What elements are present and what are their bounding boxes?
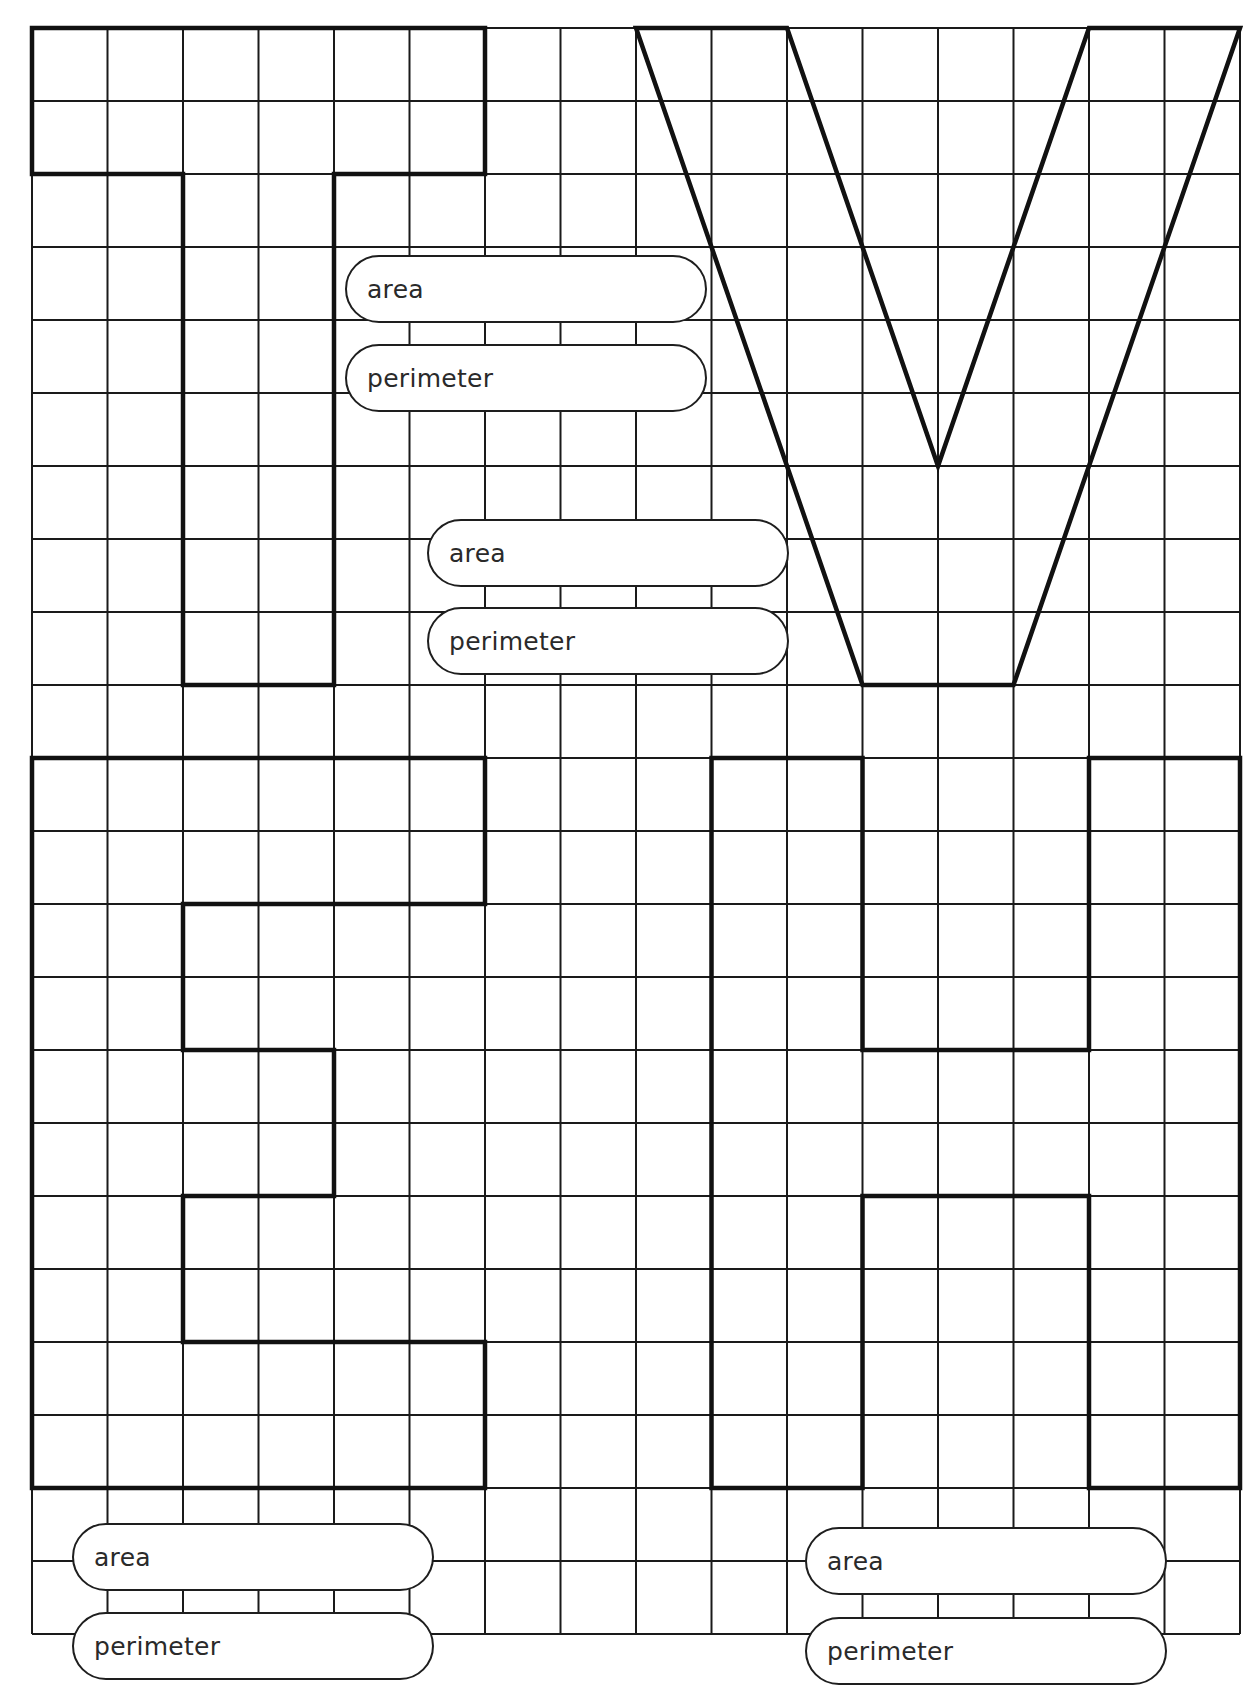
v-area-box[interactable]: area [427, 519, 789, 587]
t-area-box[interactable]: area [345, 255, 707, 323]
t-area-label: area [367, 275, 424, 304]
v-area-label: area [449, 539, 506, 568]
t-perimeter-label: perimeter [367, 364, 493, 393]
e-area-label: area [94, 1543, 151, 1572]
grid-worksheet: area perimeter area perimeter area perim… [0, 0, 1259, 1707]
e-perimeter-label: perimeter [94, 1632, 220, 1661]
v-perimeter-label: perimeter [449, 627, 575, 656]
h-perimeter-label: perimeter [827, 1637, 953, 1666]
h-area-box[interactable]: area [805, 1527, 1167, 1595]
t-perimeter-box[interactable]: perimeter [345, 344, 707, 412]
e-area-box[interactable]: area [72, 1523, 434, 1591]
v-perimeter-box[interactable]: perimeter [427, 607, 789, 675]
h-perimeter-box[interactable]: perimeter [805, 1617, 1167, 1685]
e-perimeter-box[interactable]: perimeter [72, 1612, 434, 1680]
h-area-label: area [827, 1547, 884, 1576]
